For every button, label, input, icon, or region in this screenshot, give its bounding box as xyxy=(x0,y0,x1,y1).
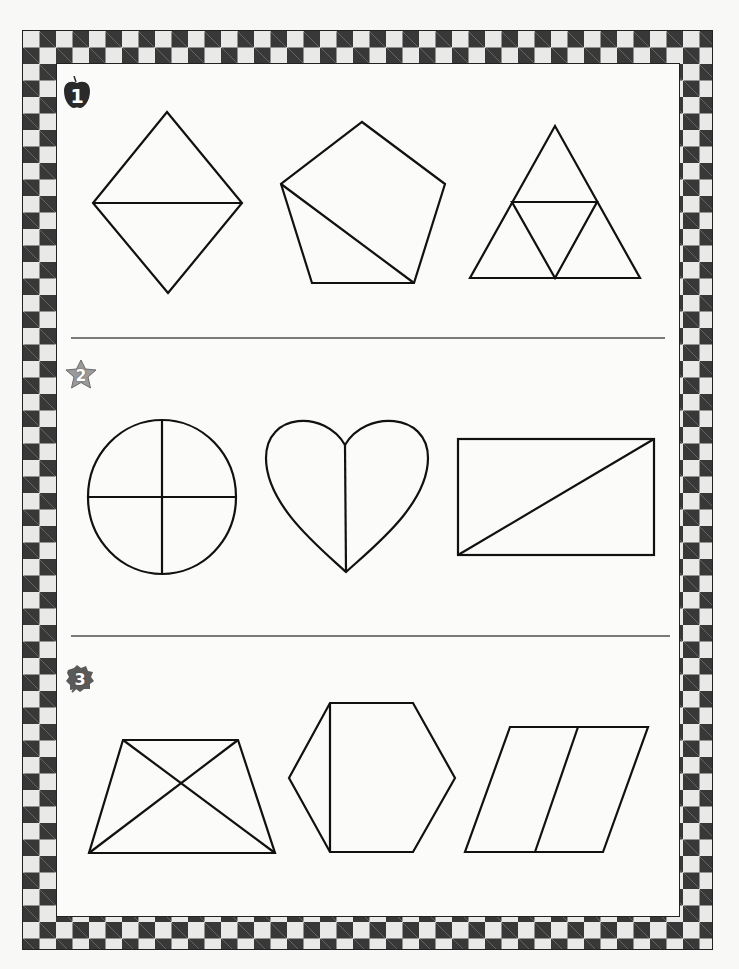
section-1-number: 1 xyxy=(70,85,83,107)
parallelogram-shape xyxy=(465,727,648,852)
section-3-number: 3 xyxy=(74,670,85,689)
section-2-number: 2 xyxy=(76,367,86,385)
worksheet-page: 1 2 3 xyxy=(0,0,739,969)
hexagon-shape xyxy=(289,703,455,852)
trapezoid-shape xyxy=(89,740,275,853)
heart-shape xyxy=(266,421,428,572)
worksheet-drawings xyxy=(0,0,739,969)
triangle-shape xyxy=(470,126,640,278)
section-2-shapes xyxy=(88,420,654,574)
section-1-shapes xyxy=(93,112,640,293)
circle-shape xyxy=(88,420,236,574)
rhombus-shape xyxy=(93,112,242,293)
section-3-shapes xyxy=(89,703,648,853)
pentagon-shape xyxy=(281,122,445,283)
rectangle-shape xyxy=(458,439,654,555)
